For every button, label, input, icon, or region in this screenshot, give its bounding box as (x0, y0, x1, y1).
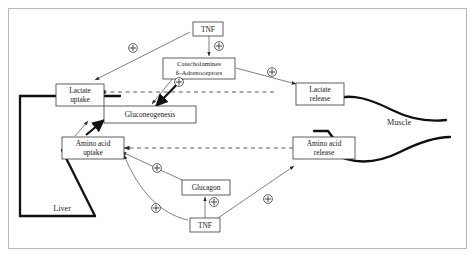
plus-marker-catecholamines-to-muscle (268, 68, 277, 77)
plus-marker-tnf-to-catecholamines (215, 42, 224, 51)
figure-container: TNF Catecholamines ß-Adrenoceptors Lacta… (0, 0, 475, 257)
node-glucagon-label: Glucagon (192, 183, 221, 192)
edge-aa-uptake-to-gluconeogenesis (86, 120, 104, 135)
node-lactate-uptake-line2: uptake (70, 95, 90, 104)
node-aa-uptake-line1: Amino acid (76, 139, 111, 148)
node-lactate-release-line2: release (310, 94, 331, 103)
edge-catecholamines-to-lactate-release (236, 68, 296, 84)
node-catecholamines-line1: Catecholamines (177, 60, 221, 67)
node-tnf-top-label: TNF (201, 25, 215, 34)
node-amino-acid-release[interactable]: Amino acid release (293, 137, 355, 159)
plus-marker-catecholamines-to-gluconeo (175, 78, 184, 87)
muscle-label: Muscle (387, 118, 411, 127)
node-tnf-top[interactable]: TNF (193, 22, 223, 36)
edge-glucagon-to-aa-uptake (122, 152, 182, 180)
node-catecholamines[interactable]: Catecholamines ß-Adrenoceptors (163, 58, 235, 79)
figure-frame (9, 9, 467, 249)
node-lactate-release-line1: Lactate (309, 85, 331, 94)
node-lactate-release[interactable]: Lactate release (296, 83, 344, 105)
node-aa-release-line2: release (314, 148, 335, 157)
plus-marker-tnf-to-glucagon (210, 198, 219, 207)
node-tnf-bottom[interactable]: TNF (190, 218, 220, 232)
node-lactate-uptake[interactable]: Lactate uptake (56, 84, 104, 106)
plus-marker-tnf-to-aa-uptake (152, 204, 161, 213)
node-gluconeogenesis[interactable]: Gluconeogenesis (104, 106, 196, 123)
liver-label: Liver (53, 204, 71, 213)
node-aa-release-line1: Amino acid (307, 139, 342, 148)
plus-marker-tnf-to-aa-release (264, 195, 273, 204)
node-gluconeogenesis-label: Gluconeogenesis (125, 110, 176, 119)
node-aa-uptake-line2: uptake (83, 148, 103, 157)
node-glucagon[interactable]: Glucagon (182, 180, 230, 195)
node-tnf-bottom-label: TNF (198, 221, 212, 230)
node-lactate-uptake-line1: Lactate (69, 86, 91, 95)
node-catecholamines-line2: ß-Adrenoceptors (176, 69, 223, 76)
node-amino-acid-uptake[interactable]: Amino acid uptake (62, 137, 124, 159)
plus-marker-glucagon-to-aa-uptake (153, 164, 162, 173)
plus-marker-tnf-to-lactate-uptake (129, 44, 138, 53)
